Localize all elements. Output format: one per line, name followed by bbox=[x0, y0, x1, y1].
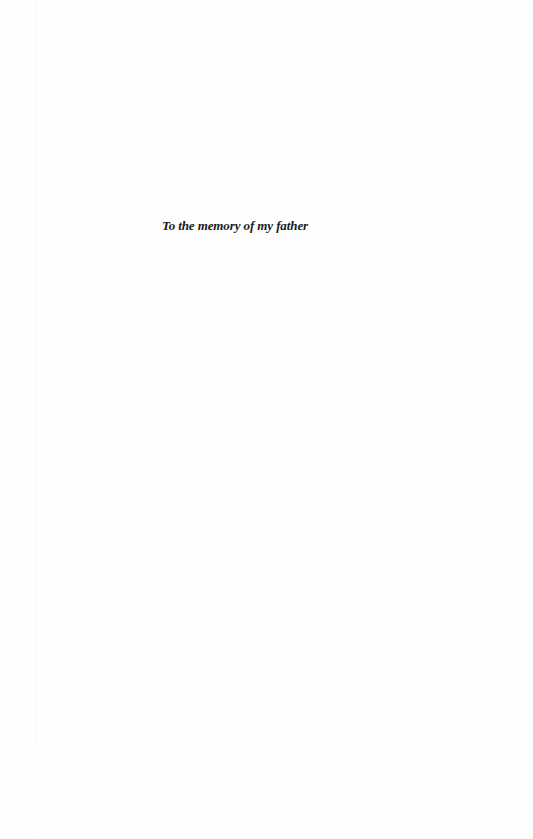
book-page: To the memory of my father bbox=[0, 0, 533, 839]
scan-edge-artifact bbox=[36, 0, 37, 839]
dedication-text: To the memory of my father bbox=[162, 219, 308, 233]
